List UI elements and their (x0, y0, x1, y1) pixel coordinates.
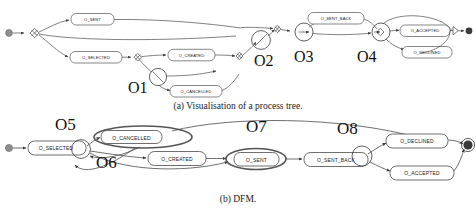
dfm-end-node (463, 140, 472, 149)
node-label: O_ACCEPTED (404, 170, 440, 176)
gate-xor-split-1 (30, 28, 39, 37)
dfm-node-o-sent-back: O_SENT_BACK (304, 153, 368, 167)
node-o-accepted: O_ACCEPTED (400, 25, 450, 37)
dfm-node-o-created: O_CREATED (148, 152, 206, 166)
dfm-node-o-selected: O_SELECTED (28, 141, 86, 155)
node-label: O_DECLINED (414, 50, 441, 55)
end-node (466, 27, 473, 34)
annotation-o8: O8 (337, 119, 358, 138)
node-label: O_DECLINED (400, 138, 434, 144)
dfm-node-o-accepted: O_ACCEPTED (390, 166, 454, 180)
annotation-o7: O7 (246, 118, 267, 136)
caption-b: (b) DFM. (0, 194, 476, 204)
node-o-sent-back: O_SENT_BACK (308, 13, 364, 25)
annotation-o2: O2 (254, 52, 274, 69)
node-label: O_SENT_BACK (321, 16, 352, 21)
node-label: O_SELECTED (82, 55, 110, 60)
node-o-sent: O_SENT (71, 14, 114, 26)
process-tree-diagram: O_SENT O_SELECTED O_CREATED O1 (0, 0, 476, 100)
annotation-o1: O1 (128, 79, 148, 96)
annotation-o6: O6 (96, 153, 117, 172)
dfm-diagram: O_SELECTED O5 O_CANCELLED O6 O_CREATED (0, 118, 476, 196)
dfm-node-o-sent: O_SENT (226, 149, 286, 170)
gate-xor-split-2 (134, 53, 142, 61)
node-label: O_CREATED (179, 53, 204, 58)
node-label: O_SENT_BACK (317, 157, 356, 163)
node-o-selected: O_SELECTED (70, 52, 122, 64)
gate-xor-join-lower (236, 52, 243, 59)
tau-node-o1 (149, 68, 166, 85)
gate-xor-join-upper (274, 25, 281, 32)
annotation-o5: O5 (55, 118, 76, 134)
annotation-o4: O4 (357, 48, 377, 65)
tau-node-o4 (372, 23, 390, 41)
node-label: O_SELECTED (39, 145, 74, 151)
node-o-cancelled: O_CANCELLED (170, 86, 222, 98)
node-label: O_CANCELLED (112, 135, 151, 141)
node-label: O_ACCEPTED (411, 28, 440, 33)
tau-node-o2 (252, 31, 271, 50)
node-label: O_CANCELLED (181, 89, 212, 94)
node-label: O_CREATED (161, 156, 193, 162)
annotation-o3: O3 (294, 48, 314, 65)
caption-a: (a) Visualisation of a process tree. (0, 101, 476, 111)
dfm-start-node (5, 144, 12, 151)
node-o-created: O_CREATED (168, 49, 215, 61)
start-node (6, 30, 13, 37)
figure-page: O_SENT O_SELECTED O_CREATED O1 (0, 0, 476, 214)
node-label: O_SENT (84, 17, 101, 22)
node-label: O_SENT (246, 157, 267, 163)
dfm-node-o-declined: O_DECLINED (386, 134, 448, 148)
